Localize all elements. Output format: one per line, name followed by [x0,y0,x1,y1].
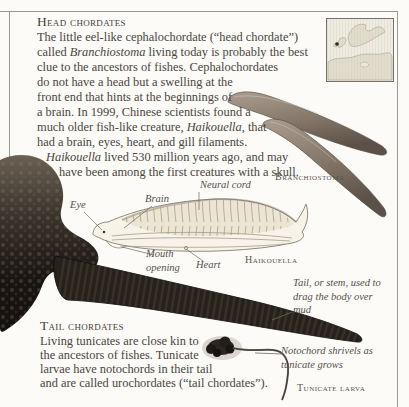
tail-stem-annotation: Tail, or stem, used to drag the body ove… [293,276,383,317]
text-line: clue to the ancestors of fishes. Cephalo… [37,60,308,75]
text-line: the ancestors of fishes. Tunicate [40,348,268,362]
text-line: a brain. In 1999, Chinese scientists fou… [37,105,308,120]
head-chordates-paragraph: The little eel-like cephalochordate (“he… [37,30,308,180]
text-line: had a brain, eyes, heart, and gill filam… [37,135,308,150]
head-chordates-heading: Head chordates [37,14,126,30]
mouth-opening-label: Mouth opening [146,247,192,274]
notochord-annotation: Notochord shrivels as tunicate grows [281,344,373,371]
top-rule [0,11,397,12]
tail-chordates-heading: Tail chordates [40,318,124,334]
heart-label: Heart [196,259,221,271]
eye-leader-line [84,212,102,230]
brain-label: Brain [145,193,169,205]
text-line: called Branchiostoma living today is pro… [37,45,308,60]
book-page: Branchiostoma [0,0,409,407]
text-line: have been among the first creatures with… [37,165,308,180]
tunicate-larva-label: Tunicate larva [297,382,365,393]
tail-chordates-paragraph: Living tunicates are close kin to the an… [40,334,268,390]
europe-map-inset [326,18,394,82]
neural-cord-label: Neural cord [200,179,251,191]
text-line: The little eel-like cephalochordate (“he… [37,30,308,45]
eye-dot [103,231,106,234]
text-line: Living tunicates are close kin to [40,334,268,348]
location-marker-dot [335,42,339,46]
text-line: do not have a head but a swelling at the [37,75,308,90]
text-line: much older fish-like creature, Haikouell… [37,120,308,135]
left-rule [9,11,10,163]
text-line: Haikouella lived 530 million years ago, … [37,150,308,165]
text-line: and are called urochordates (“tail chord… [40,376,268,390]
haikouella-label: Haikouella [245,254,298,265]
text-line: front end that hints at the beginnings o… [37,90,308,105]
text-line: larvae have notochords in their tail [40,362,268,376]
eye-label: Eye [70,199,86,211]
